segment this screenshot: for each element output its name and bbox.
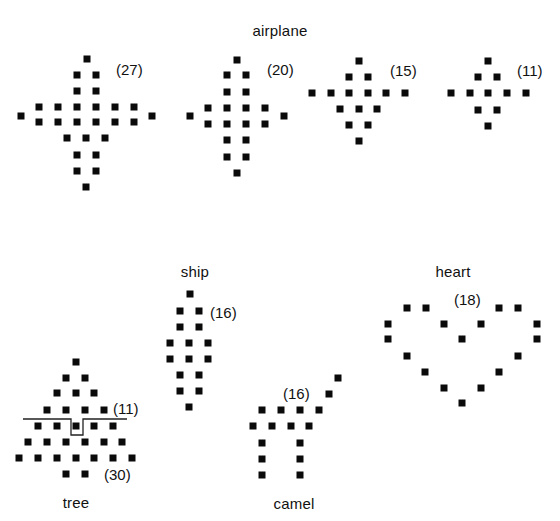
square-dot [93, 104, 100, 111]
square-dot [385, 321, 392, 328]
square-dot [297, 456, 304, 463]
square-dot [44, 407, 51, 414]
square-dot [36, 104, 43, 111]
square-dot [309, 90, 316, 97]
square-dot [441, 321, 448, 328]
square-dot [64, 135, 71, 142]
square-dot [82, 375, 89, 382]
square-dot [131, 119, 138, 126]
square-dot [131, 104, 138, 111]
square-dot [448, 90, 455, 97]
square-dot [54, 390, 61, 397]
square-dot [288, 423, 295, 430]
square-dot [224, 72, 231, 79]
square-dot [186, 340, 193, 347]
square-dot [385, 336, 392, 343]
square-dot [459, 336, 466, 343]
square-dot [374, 106, 381, 113]
square-dot [356, 106, 363, 113]
square-dot [224, 137, 231, 144]
square-dot [149, 113, 156, 120]
square-dot [177, 372, 184, 379]
square-dot [93, 88, 100, 95]
square-dot [515, 305, 522, 312]
square-dot [63, 375, 70, 382]
square-dot [328, 90, 335, 97]
square-dot [44, 439, 51, 446]
square-dot [196, 324, 203, 331]
square-dot [243, 154, 250, 161]
square-dot [74, 72, 81, 79]
square-dot [297, 440, 304, 447]
square-dot [243, 121, 250, 128]
square-dot [91, 423, 98, 430]
count-label: (15) [390, 63, 417, 78]
square-dot [224, 154, 231, 161]
square-dot [496, 305, 503, 312]
square-dot [523, 90, 530, 97]
square-dot [186, 356, 193, 363]
square-dot [281, 113, 288, 120]
group-title-heart: heart [435, 264, 470, 279]
square-dot [306, 423, 313, 430]
square-dot [422, 369, 429, 376]
square-dot [346, 74, 353, 81]
square-dot [335, 375, 342, 382]
square-dot [326, 391, 333, 398]
square-dot [36, 119, 43, 126]
square-dot [55, 119, 62, 126]
square-dot [82, 439, 89, 446]
square-dot [196, 308, 203, 315]
square-dot [119, 439, 126, 446]
square-dot [346, 122, 353, 129]
square-dot [93, 119, 100, 126]
square-dot [93, 72, 100, 79]
square-dot [259, 440, 266, 447]
square-dot [112, 119, 119, 126]
square-dot [73, 390, 80, 397]
square-dot [63, 471, 70, 478]
square-dot [243, 72, 250, 79]
square-dot [73, 423, 80, 430]
square-dot [205, 356, 212, 363]
square-dot [93, 152, 100, 159]
square-dot [467, 90, 474, 97]
square-dot [196, 388, 203, 395]
square-dot [177, 308, 184, 315]
group-title-camel: camel [273, 496, 314, 511]
square-dot [423, 305, 430, 312]
square-dot [365, 74, 372, 81]
count-label: (16) [210, 305, 237, 320]
square-dot [63, 439, 70, 446]
square-dot [259, 456, 266, 463]
square-dot [205, 121, 212, 128]
square-dot [534, 336, 541, 343]
square-dot [515, 353, 522, 360]
dot-pattern-figure: airplane(27)(20)(15)(11)ship(16)heart(18… [0, 0, 560, 521]
square-dot [259, 407, 266, 414]
square-dot [82, 407, 89, 414]
square-dot [234, 170, 241, 177]
square-dot [35, 455, 42, 462]
square-dot [73, 359, 80, 366]
square-dot [402, 90, 409, 97]
square-dot [504, 90, 511, 97]
square-dot [196, 372, 203, 379]
square-dot [101, 407, 108, 414]
square-dot [278, 407, 285, 414]
square-dot [534, 321, 541, 328]
group-title-tree: tree [63, 495, 90, 510]
count-label: (11) [517, 63, 543, 78]
square-dot [337, 106, 344, 113]
square-dot [35, 423, 42, 430]
square-dot [177, 324, 184, 331]
square-dot [93, 168, 100, 175]
square-dot [243, 137, 250, 144]
square-dot [441, 385, 448, 392]
square-dot [110, 423, 117, 430]
square-dot [356, 138, 363, 145]
square-dot [297, 472, 304, 479]
count-label: (27) [116, 62, 143, 77]
square-dot [365, 122, 372, 129]
square-dot [74, 168, 81, 175]
